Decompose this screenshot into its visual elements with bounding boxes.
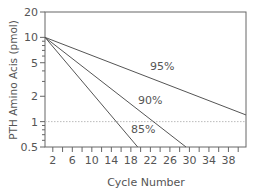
y-tick-label: 1 <box>31 116 38 129</box>
x-axis: 261014182226303438 <box>49 147 238 167</box>
series-label: 95% <box>150 60 174 73</box>
y-tick-label: 2 <box>31 90 38 103</box>
series-line-90pct <box>45 37 186 147</box>
x-tick-label: 22 <box>143 154 157 167</box>
x-tick-label: 18 <box>124 154 138 167</box>
x-tick-label: 10 <box>85 154 99 167</box>
x-tick-label: 14 <box>104 154 118 167</box>
x-tick-label: 26 <box>163 154 177 167</box>
x-tick-label: 30 <box>182 154 196 167</box>
y-axis-label: PTH Amino Acis (pmol) <box>7 20 19 140</box>
x-axis-label: Cycle Number <box>107 176 185 189</box>
y-axis: 20105210.5 <box>21 6 46 154</box>
x-tick-label: 2 <box>49 154 56 167</box>
x-tick-label: 6 <box>69 154 76 167</box>
series-label: 90% <box>138 94 162 107</box>
chart: 20105210.5 261014182226303438 95%90%85% … <box>0 0 260 195</box>
series-line-85pct <box>45 37 138 147</box>
x-tick-label: 34 <box>202 154 216 167</box>
y-tick-label: 5 <box>31 57 38 70</box>
y-tick-label: 10 <box>24 31 38 44</box>
series-label: 85% <box>131 123 155 136</box>
y-tick-label: 20 <box>24 6 38 19</box>
x-tick-label: 38 <box>221 154 235 167</box>
series-lines: 95%90%85% <box>45 37 246 147</box>
y-tick-label: 0.5 <box>21 141 39 154</box>
